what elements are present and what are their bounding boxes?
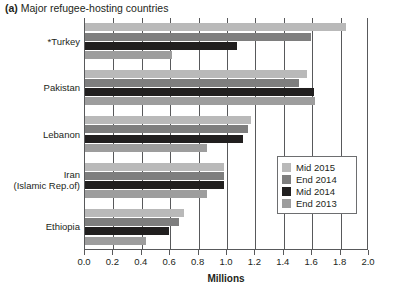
y-axis-label: Iran(Islamic Rep.of) [0, 169, 80, 191]
legend-label: Mid 2015 [296, 162, 335, 173]
y-axis-label-line: Iran [0, 169, 80, 180]
bar [85, 79, 299, 87]
x-axis-tick [226, 250, 227, 255]
bar [85, 125, 248, 133]
bar [85, 135, 243, 143]
bar [85, 23, 346, 31]
bar [85, 172, 224, 180]
x-axis-tick [254, 250, 255, 255]
bar [85, 70, 307, 78]
bar [85, 144, 207, 152]
bar [85, 163, 224, 171]
y-axis-label-line: *Turkey [0, 36, 80, 47]
bar-group [85, 23, 367, 59]
x-axis-title: Millions [84, 273, 368, 284]
bar [85, 190, 207, 198]
y-axis-label: *Turkey [0, 36, 80, 47]
legend-swatch [282, 199, 291, 208]
legend-swatch [282, 187, 291, 196]
figure-title: (a) Major refugee-hosting countries [5, 2, 168, 15]
bar [85, 33, 311, 41]
legend-item: End 2013 [282, 197, 351, 209]
bar [85, 227, 169, 235]
y-axis-label: Ethiopia [0, 221, 80, 232]
x-axis-tick-label: 2.0 [348, 256, 388, 268]
x-axis-tick [112, 250, 113, 255]
legend-item: Mid 2014 [282, 185, 351, 197]
bar [85, 116, 251, 124]
x-axis-tick [368, 250, 369, 255]
legend-label: Mid 2014 [296, 186, 335, 197]
legend-item: Mid 2015 [282, 161, 351, 173]
x-axis-tick [169, 250, 170, 255]
bar [85, 51, 172, 59]
y-axis-label-line: Ethiopia [0, 221, 80, 232]
y-axis-label-line: Lebanon [0, 129, 80, 140]
chart-figure: (a) Major refugee-hosting countries *Tur… [0, 0, 402, 298]
x-axis-tick [311, 250, 312, 255]
bar [85, 209, 184, 217]
plot-area [84, 18, 368, 250]
x-axis-tick [84, 250, 85, 255]
bar [85, 237, 146, 245]
x-axis-tick [283, 250, 284, 255]
x-axis-tick [141, 250, 142, 255]
y-axis-label-line: (Islamic Rep.of) [0, 180, 80, 191]
legend-swatch [282, 163, 291, 172]
x-axis-tick [340, 250, 341, 255]
bar-group [85, 116, 367, 152]
bar [85, 181, 224, 189]
legend-item: End 2014 [282, 173, 351, 185]
figure-title-text: Major refugee-hosting countries [21, 2, 169, 14]
bar [85, 97, 315, 105]
legend-label: End 2013 [296, 198, 337, 209]
y-axis-label: Lebanon [0, 129, 80, 140]
legend-swatch [282, 175, 291, 184]
figure-label: (a) [5, 2, 18, 14]
y-axis-label: Pakistan [0, 82, 80, 93]
x-axis-tick [198, 250, 199, 255]
bar [85, 42, 237, 50]
legend-label: End 2014 [296, 174, 337, 185]
y-axis-label-line: Pakistan [0, 82, 80, 93]
bar [85, 88, 314, 96]
bar [85, 218, 179, 226]
bar-group [85, 209, 367, 245]
bar-group [85, 70, 367, 106]
chart-legend: Mid 2015End 2014Mid 2014End 2013 [277, 156, 357, 214]
